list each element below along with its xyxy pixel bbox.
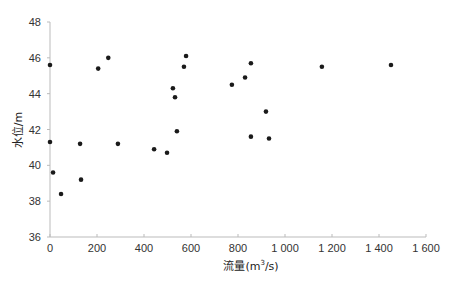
y-tick-label: 38 xyxy=(29,195,41,207)
data-point xyxy=(48,63,53,68)
x-tick-label: 400 xyxy=(135,242,153,254)
data-point xyxy=(173,95,178,100)
data-point xyxy=(267,136,272,141)
x-tick-label: 1 400 xyxy=(365,242,393,254)
data-point xyxy=(78,142,83,147)
x-tick-label: 800 xyxy=(229,242,247,254)
data-point xyxy=(171,86,176,91)
data-point xyxy=(320,64,325,69)
y-tick-label: 36 xyxy=(29,231,41,243)
y-tick-label: 44 xyxy=(29,88,41,100)
data-point xyxy=(79,177,84,182)
data-point xyxy=(116,142,121,147)
scatter-chart: 3638404244464802004006008001 0001 2001 4… xyxy=(0,0,454,284)
data-point xyxy=(165,150,170,155)
data-point xyxy=(264,109,269,114)
data-point xyxy=(230,82,235,87)
y-tick-label: 46 xyxy=(29,52,41,64)
data-point xyxy=(389,63,394,68)
y-tick-label: 48 xyxy=(29,16,41,28)
data-point xyxy=(106,56,111,61)
x-tick-label: 1 600 xyxy=(412,242,440,254)
x-tick-label: 0 xyxy=(47,242,53,254)
data-point xyxy=(51,170,56,175)
y-axis-label: 水位/m xyxy=(11,112,25,148)
x-axis-label: 流量(m3/s) xyxy=(223,259,278,273)
x-tick-label: 1 200 xyxy=(318,242,346,254)
plot-area: 3638404244464802004006008001 0001 2001 4… xyxy=(11,16,440,273)
data-point xyxy=(184,54,189,59)
y-tick-label: 40 xyxy=(29,159,41,171)
data-point xyxy=(243,75,248,80)
data-point xyxy=(249,61,254,66)
x-tick-label: 1 000 xyxy=(271,242,299,254)
y-tick-label: 42 xyxy=(29,124,41,136)
x-tick-label: 200 xyxy=(88,242,106,254)
data-point xyxy=(182,64,187,69)
data-point xyxy=(249,134,254,139)
data-point xyxy=(96,66,101,71)
data-point xyxy=(175,129,180,134)
x-tick-label: 600 xyxy=(182,242,200,254)
data-point xyxy=(48,140,53,145)
data-point xyxy=(152,147,157,152)
data-point xyxy=(59,192,64,197)
